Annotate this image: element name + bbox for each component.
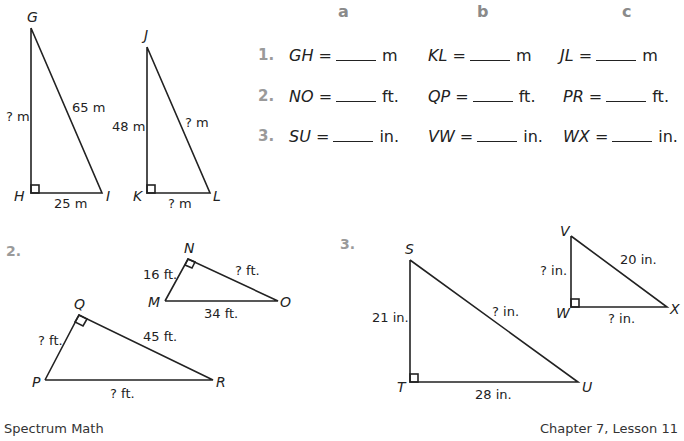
equals-sign: = xyxy=(316,127,329,146)
side-st-label: 21 in. xyxy=(372,310,409,325)
footer-book-title: Spectrum Math xyxy=(4,421,104,436)
vertex-v: V xyxy=(560,223,571,239)
vertex-i: I xyxy=(106,188,110,204)
side-wx-label: ? in. xyxy=(608,311,635,326)
column-header-a: a xyxy=(338,2,349,21)
vertex-s: S xyxy=(405,241,414,257)
answer-cell-2b: QP =ft. xyxy=(428,87,535,106)
side-kl-label: ? m xyxy=(168,196,192,211)
side-mo-label: 34 ft. xyxy=(204,306,238,321)
unit-label: ft. xyxy=(652,87,669,106)
answer-blank-no[interactable] xyxy=(336,87,376,102)
equals-sign: = xyxy=(319,87,332,106)
question-row-3: 3. SU =in. VW =in. WX =in. xyxy=(258,127,684,149)
segment-name: GH xyxy=(289,46,313,65)
answer-cell-1a: GH =m xyxy=(289,46,398,65)
vertex-u: U xyxy=(582,379,592,395)
side-mn-label: 16 ft. xyxy=(143,267,177,282)
question-row-1: 1. GH =m KL =m JL =m xyxy=(258,46,684,68)
answer-blank-jl[interactable] xyxy=(596,46,636,61)
vertex-p: P xyxy=(32,374,41,390)
segment-name: JL xyxy=(560,46,574,65)
triangle-vwx xyxy=(571,236,667,307)
question-number: 1. xyxy=(258,46,274,64)
side-gi-label: 65 m xyxy=(72,100,105,115)
vertex-m: M xyxy=(148,294,160,310)
section-2-label: 2. xyxy=(6,243,21,259)
unit-label: in. xyxy=(658,127,678,146)
vertex-t: T xyxy=(397,379,407,395)
answer-blank-wx[interactable] xyxy=(612,127,652,142)
vertex-g: G xyxy=(27,9,38,25)
side-qr-label: 45 ft. xyxy=(143,329,177,344)
side-vx-label: 20 in. xyxy=(620,252,657,267)
segment-name: NO xyxy=(289,87,314,106)
column-header-b: b xyxy=(477,2,488,21)
side-hi-label: 25 m xyxy=(54,196,87,211)
unit-label: m xyxy=(382,46,398,65)
triangle-mno xyxy=(165,259,278,301)
unit-label: in. xyxy=(523,127,543,146)
triangle-stu xyxy=(410,260,578,382)
equals-sign: = xyxy=(460,127,473,146)
equals-sign: = xyxy=(453,46,466,65)
equals-sign: = xyxy=(579,46,592,65)
unit-label: m xyxy=(516,46,532,65)
answer-cell-3a: SU =in. xyxy=(289,127,399,146)
segment-name: VW xyxy=(428,127,455,146)
vertex-j: J xyxy=(141,27,148,43)
vertex-l: L xyxy=(213,188,221,204)
triangle-pqr xyxy=(45,315,213,380)
vertex-k: K xyxy=(133,188,144,204)
answer-blank-qp[interactable] xyxy=(473,87,513,102)
answer-blank-vw[interactable] xyxy=(477,127,517,142)
segment-name: QP xyxy=(428,87,450,106)
side-jk-label: 48 m xyxy=(112,119,145,134)
answer-cell-2c: PR =ft. xyxy=(563,87,669,106)
vertex-n: N xyxy=(184,240,195,256)
side-pq-label: ? ft. xyxy=(38,333,63,348)
equals-sign: = xyxy=(455,87,468,106)
unit-label: in. xyxy=(379,127,399,146)
answer-cell-1b: KL =m xyxy=(428,46,532,65)
answer-blank-kl[interactable] xyxy=(470,46,510,61)
segment-name: WX xyxy=(563,127,590,146)
vertex-o: O xyxy=(280,294,291,310)
vertex-r: R xyxy=(216,374,226,390)
segment-name: KL xyxy=(428,46,447,65)
vertex-h: H xyxy=(14,188,25,204)
section-3-label: 3. xyxy=(340,236,355,252)
equals-sign: = xyxy=(595,127,608,146)
side-pr-label: ? ft. xyxy=(110,386,135,401)
vertex-w: W xyxy=(556,305,571,321)
vertex-x: X xyxy=(669,301,680,317)
footer-chapter-lesson: Chapter 7, Lesson 11 xyxy=(540,421,678,436)
side-su-label: ? in. xyxy=(492,304,519,319)
unit-label: ft. xyxy=(382,87,399,106)
answer-cell-3b: VW =in. xyxy=(428,127,543,146)
question-number: 2. xyxy=(258,87,274,105)
answer-cell-1c: JL =m xyxy=(560,46,658,65)
question-row-2: 2. NO =ft. QP =ft. PR =ft. xyxy=(258,87,684,109)
side-tu-label: 28 in. xyxy=(475,387,512,402)
answer-cell-2a: NO =ft. xyxy=(289,87,399,106)
unit-label: m xyxy=(642,46,658,65)
answer-blank-su[interactable] xyxy=(333,127,373,142)
answer-blank-gh[interactable] xyxy=(336,46,376,61)
unit-label: ft. xyxy=(519,87,536,106)
side-vw-label: ? in. xyxy=(540,263,567,278)
side-gh-label: ? m xyxy=(6,109,30,124)
equals-sign: = xyxy=(319,46,332,65)
side-no-label: ? ft. xyxy=(235,263,260,278)
vertex-q: Q xyxy=(74,296,85,312)
answer-cell-3c: WX =in. xyxy=(563,127,678,146)
segment-name: PR xyxy=(563,87,584,106)
side-jl-label: ? m xyxy=(185,115,209,130)
question-number: 3. xyxy=(258,127,274,145)
equals-sign: = xyxy=(589,87,602,106)
column-header-c: c xyxy=(622,2,631,21)
segment-name: SU xyxy=(289,127,311,146)
answer-blank-pr[interactable] xyxy=(606,87,646,102)
